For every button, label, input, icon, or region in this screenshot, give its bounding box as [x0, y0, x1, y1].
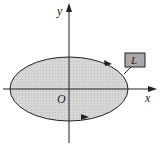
x-axis-label: x [145, 92, 150, 104]
orientation-arrow-top-icon [104, 60, 112, 66]
y-axis-arrow-icon [66, 3, 72, 12]
origin-label: O [57, 93, 66, 105]
curve-label: L [131, 55, 137, 66]
y-axis-label: y [57, 5, 62, 17]
diagram-canvas [0, 0, 164, 161]
